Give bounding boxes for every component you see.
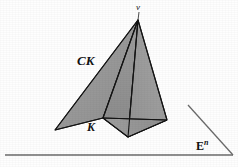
figure-canvas: v CK K En bbox=[0, 0, 238, 167]
apex-tick bbox=[138, 12, 139, 20]
label-cone-ck: CK bbox=[77, 54, 95, 67]
ray-en bbox=[188, 105, 233, 155]
label-base-k: K bbox=[87, 121, 95, 133]
label-space-en-exponent: n bbox=[204, 138, 208, 147]
label-space-en: En bbox=[196, 139, 208, 152]
label-space-en-base: E bbox=[196, 139, 204, 153]
label-apex-v: v bbox=[136, 3, 140, 12]
